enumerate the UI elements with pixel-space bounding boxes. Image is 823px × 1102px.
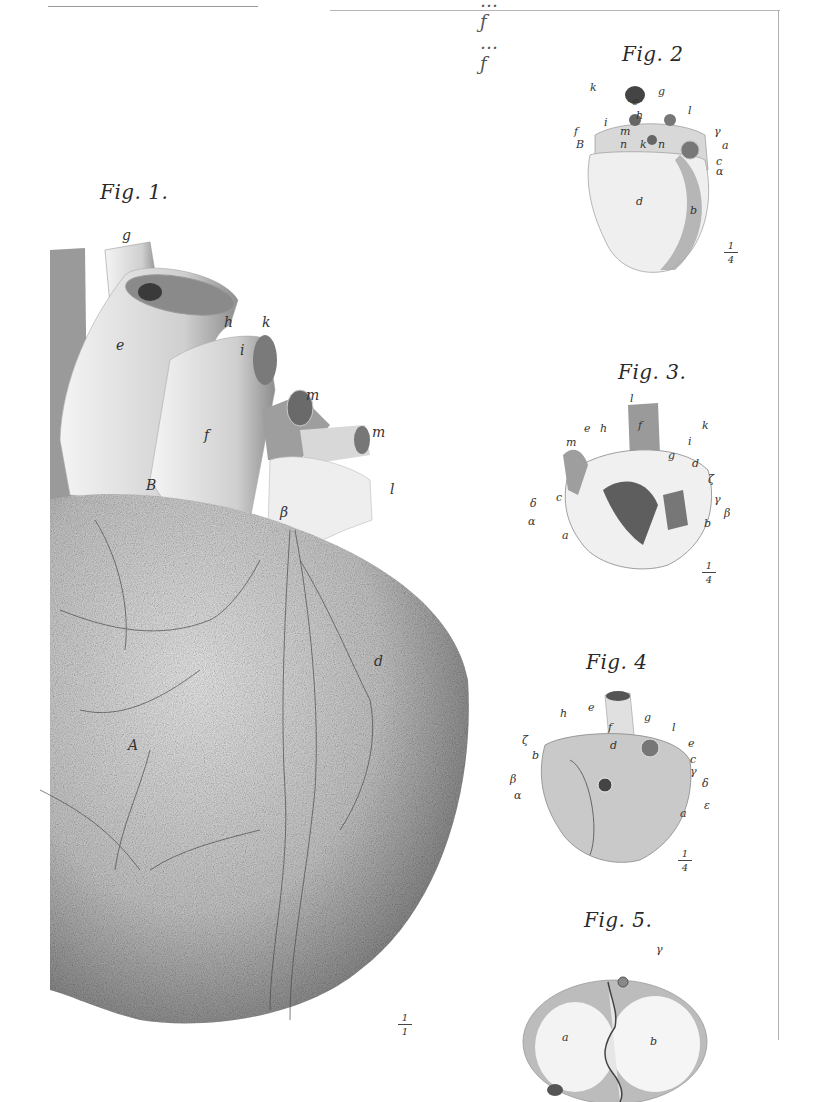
fig4-label-gamma: γ (690, 766, 697, 777)
fig3-label-h: h (600, 423, 607, 434)
fig4-label-f: f (608, 722, 612, 733)
fig1-scale: 1 1 (398, 1012, 412, 1037)
fig1-label-d: d (374, 654, 383, 668)
fig3-label-delta: δ (530, 498, 537, 509)
fig4-label-a: a (680, 808, 687, 819)
fig3-label-l: l (630, 393, 634, 404)
fig3-label-alpha: α (528, 516, 535, 527)
fig3-label-gamma: γ (714, 494, 721, 505)
fig2-label-f: f (574, 126, 578, 137)
figure-4-heart-illustration (530, 690, 700, 870)
fig2-label-alpha: α (716, 166, 723, 177)
fig2-label-B: B (576, 139, 584, 150)
top-rule-left (48, 6, 258, 7)
fig4-label-c: c (690, 754, 696, 765)
fig4-scale: 1 4 (678, 848, 692, 873)
fig1-label-e: e (116, 338, 124, 352)
figure-1-heart-illustration (0, 230, 470, 1030)
fig1-label-m-2: m (372, 425, 385, 439)
fig1-scale-numerator: 1 (402, 1012, 408, 1023)
fig2-label-g: g (658, 86, 665, 97)
fig4-scale-numerator: 1 (682, 848, 688, 859)
fig2-label-e: e (632, 96, 639, 107)
fig3-scale-denominator: 4 (706, 574, 712, 585)
fig1-label-f: f (204, 428, 209, 442)
fig3-label-c: c (556, 492, 562, 503)
fig4-label-alpha: α (514, 790, 521, 801)
fig1-label-beta: β (280, 505, 288, 519)
fig4-label-g: g (644, 712, 651, 723)
fig4-label-zeta: ζ (522, 735, 528, 746)
fig3-label-g: g (668, 450, 675, 461)
fig1-label-h: h (224, 315, 233, 329)
fig4-label-e-right: e (688, 738, 695, 749)
fig5-label-a: a (562, 1032, 569, 1043)
fig1-label-A: A (128, 738, 138, 752)
figure-5-title: Fig. 5. (584, 908, 652, 932)
fig1-label-g: g (122, 228, 131, 242)
fig4-label-b: b (532, 750, 539, 761)
fig3-scale-numerator: 1 (706, 560, 712, 571)
fig2-label-d: d (636, 196, 643, 207)
fig4-label-beta: β (510, 774, 516, 785)
figure-2-title: Fig. 2 (622, 42, 684, 66)
fig2-label-m: m (620, 126, 630, 137)
figure-2-heart-illustration (580, 80, 720, 280)
fig4-label-d: d (610, 740, 617, 751)
fig2-scale-numerator: 1 (728, 240, 734, 251)
fig1-label-l: l (390, 482, 394, 496)
fig1-label-k: k (262, 315, 270, 329)
figure-5-cross-section-illustration (520, 972, 710, 1102)
fig2-label-n-1: n (620, 139, 627, 150)
fig1-label-B: B (146, 478, 156, 492)
fig5-label-b: b (650, 1036, 657, 1047)
fig2-label-h: h (636, 110, 643, 121)
fig2-label-k-mid: k (640, 139, 647, 150)
fig3-label-beta: β (724, 508, 730, 519)
fig4-label-h: h (560, 708, 567, 719)
fig3-label-k: k (702, 420, 709, 431)
fig3-label-a: a (562, 530, 569, 541)
fig3-label-b: b (704, 518, 711, 529)
right-border-rule (778, 10, 779, 1040)
fig2-label-n-2: n (658, 139, 665, 150)
fig2-scale-denominator: 4 (728, 254, 734, 265)
fig3-label-f: f (638, 420, 642, 431)
fig5-label-gamma: γ (656, 944, 663, 955)
fig3-label-i: i (688, 436, 692, 447)
fig4-label-l: l (672, 722, 676, 733)
fig2-label-k-top: k (590, 82, 597, 93)
fig2-label-b: b (690, 205, 697, 216)
fig3-scale: 1 4 (702, 560, 716, 585)
fig3-label-zeta: ζ (708, 474, 714, 485)
figure-4-title: Fig. 4 (586, 650, 648, 674)
figure-3-title: Fig. 3. (618, 360, 686, 384)
fig2-label-a: a (722, 140, 729, 151)
fig4-label-epsilon: ε (704, 800, 710, 811)
fig2-label-gamma: γ (714, 126, 721, 137)
fig2-label-l: l (688, 105, 692, 116)
fig3-label-e: e (584, 423, 591, 434)
fig2-scale: 1 4 (724, 240, 738, 265)
fig2-label-i: i (604, 117, 608, 128)
fig1-label-i: i (240, 343, 244, 357)
fig4-label-e-top: e (588, 702, 595, 713)
fig1-label-m-1: m (306, 388, 319, 402)
fig4-scale-denominator: 4 (682, 862, 688, 873)
fig3-label-d: d (692, 458, 699, 469)
fig1-scale-denominator: 1 (402, 1026, 408, 1037)
fig3-label-m: m (566, 437, 576, 448)
fig4-label-delta: δ (702, 778, 709, 789)
figure-1-title: Fig. 1. (100, 180, 168, 204)
